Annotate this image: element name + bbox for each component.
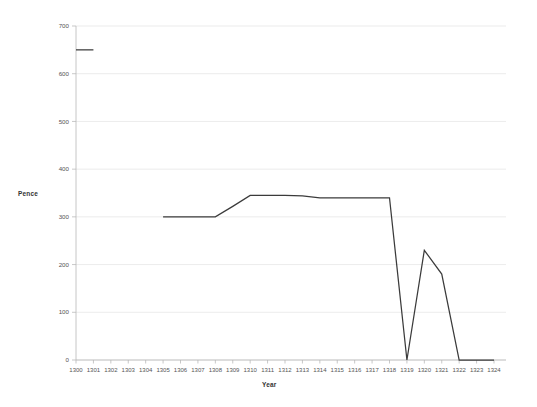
y-tick-label: 200 bbox=[59, 261, 70, 268]
x-tick-label: 1317 bbox=[365, 367, 379, 373]
y-tick-label: 500 bbox=[59, 118, 70, 125]
x-axis-title: Year bbox=[262, 381, 277, 388]
x-tick-label: 1301 bbox=[87, 367, 101, 373]
x-tick-label: 1309 bbox=[226, 367, 240, 373]
x-tick-label: 1315 bbox=[331, 367, 345, 373]
x-tick-label: 1305 bbox=[156, 367, 170, 373]
y-tick-label: 100 bbox=[59, 308, 70, 315]
y-tick-label: 0 bbox=[66, 356, 70, 363]
x-axis-tick-marks bbox=[76, 360, 494, 364]
y-tick-label: 300 bbox=[59, 213, 70, 220]
gridlines bbox=[72, 26, 506, 360]
x-tick-label: 1310 bbox=[243, 367, 257, 373]
x-tick-label: 1312 bbox=[278, 367, 292, 373]
x-tick-label: 1319 bbox=[400, 367, 414, 373]
chart-container: 0100200300400500600700 13001301130213031… bbox=[0, 0, 537, 407]
x-tick-label: 1306 bbox=[174, 367, 188, 373]
y-tick-label: 600 bbox=[59, 70, 70, 77]
x-axis-tick-labels: 1300130113021303130413051306130713081309… bbox=[69, 367, 501, 373]
y-axis-title: Pence bbox=[18, 190, 38, 197]
x-tick-label: 1313 bbox=[296, 367, 310, 373]
x-tick-label: 1321 bbox=[435, 367, 449, 373]
x-tick-label: 1322 bbox=[452, 367, 466, 373]
y-axis-tick-labels: 0100200300400500600700 bbox=[59, 22, 70, 363]
x-tick-label: 1320 bbox=[418, 367, 432, 373]
x-tick-label: 1308 bbox=[209, 367, 223, 373]
x-tick-label: 1316 bbox=[348, 367, 362, 373]
y-tick-label: 700 bbox=[59, 22, 70, 29]
x-tick-label: 1302 bbox=[104, 367, 118, 373]
x-tick-label: 1307 bbox=[191, 367, 205, 373]
x-tick-label: 1314 bbox=[313, 367, 327, 373]
x-tick-label: 1303 bbox=[122, 367, 136, 373]
x-tick-label: 1311 bbox=[261, 367, 275, 373]
chart-plot-area: 0100200300400500600700 13001301130213031… bbox=[0, 0, 537, 407]
x-tick-label: 1304 bbox=[139, 367, 153, 373]
x-tick-label: 1323 bbox=[470, 367, 484, 373]
x-tick-label: 1300 bbox=[69, 367, 83, 373]
x-tick-label: 1318 bbox=[383, 367, 397, 373]
x-tick-label: 1324 bbox=[487, 367, 501, 373]
data-line-segment bbox=[163, 195, 494, 360]
data-series-pence bbox=[76, 50, 494, 360]
axis-lines bbox=[76, 26, 506, 360]
y-tick-label: 400 bbox=[59, 165, 70, 172]
